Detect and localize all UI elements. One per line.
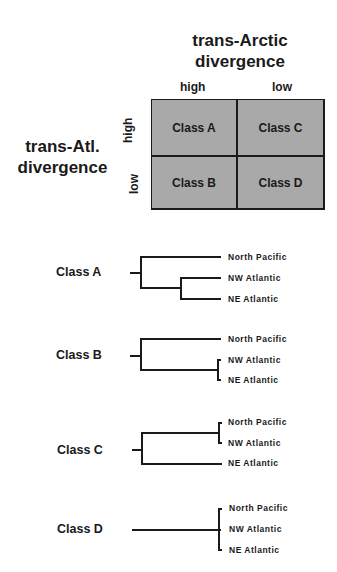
tree-c-v2: [218, 422, 220, 444]
tree-a-leaf-ne: NE Atlantic: [228, 294, 279, 304]
tree-b-ne: [217, 379, 221, 381]
tree-d-root: [132, 529, 221, 531]
tree-a-ne: [180, 298, 221, 300]
tree-a-np: [140, 256, 221, 258]
tree-a-leaf-np: North Pacific: [228, 252, 287, 262]
tree-label-class-b: Class B: [56, 348, 102, 362]
tree-label-class-c: Class C: [57, 443, 103, 457]
matrix-grid: Class A Class C Class B Class D: [151, 99, 325, 210]
tree-c-v1: [141, 432, 143, 465]
tree-c-ne: [141, 463, 222, 465]
column-label-high: high: [180, 80, 205, 94]
tree-label-class-a: Class A: [56, 265, 101, 279]
tree-a-leaf-nw: NW Atlantic: [228, 273, 281, 283]
tree-b-leaf-nw: NW Atlantic: [228, 355, 281, 365]
tree-a-v1: [140, 256, 142, 289]
tree-d-leaf-nw: NW Atlantic: [229, 524, 282, 534]
row-label-high: high: [121, 118, 135, 143]
tree-d-v: [218, 508, 220, 551]
row-title: trans-Atl. divergence: [10, 136, 115, 178]
cell-class-d: Class D: [238, 157, 323, 208]
tree-d-np: [218, 508, 222, 510]
column-title: trans-Arctic divergence: [175, 30, 305, 72]
tree-d-ne: [218, 549, 222, 551]
row-title-line1: trans-Atl.: [10, 136, 115, 157]
tree-b-nw: [217, 359, 221, 361]
tree-c-nw: [218, 442, 222, 444]
tree-d-leaf-ne: NE Atlantic: [229, 545, 280, 555]
tree-c-leaf-nw: NW Atlantic: [228, 438, 281, 448]
tree-label-class-d: Class D: [57, 522, 103, 536]
column-title-line2: divergence: [175, 51, 305, 72]
tree-b-v1: [140, 338, 142, 371]
tree-b-leaf-ne: NE Atlantic: [228, 375, 279, 385]
row-title-line2: divergence: [10, 157, 115, 178]
tree-a-v2: [180, 277, 182, 300]
tree-b-v2: [217, 359, 219, 381]
cell-class-c: Class C: [238, 100, 323, 155]
row-label-low: low: [127, 174, 141, 194]
figure: trans-Arctic divergence trans-Atl. diver…: [0, 0, 337, 572]
tree-a-b: [140, 287, 181, 289]
tree-b-leaf-np: North Pacific: [228, 334, 287, 344]
tree-c-leaf-ne: NE Atlantic: [228, 458, 279, 468]
column-label-low: low: [272, 80, 292, 94]
tree-d-leaf-np: North Pacific: [229, 503, 288, 513]
cell-class-a: Class A: [152, 100, 236, 155]
column-title-line1: trans-Arctic: [175, 30, 305, 51]
tree-c-a: [141, 432, 220, 434]
cell-class-b: Class B: [152, 157, 236, 208]
tree-c-np: [218, 422, 222, 424]
tree-b-b: [140, 369, 219, 371]
tree-a-nw: [180, 277, 221, 279]
tree-b-np: [140, 338, 221, 340]
tree-c-leaf-np: North Pacific: [228, 417, 287, 427]
